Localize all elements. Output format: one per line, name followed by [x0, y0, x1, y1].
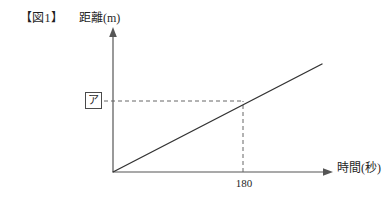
figure-panel: 【図1】 距離(m) 時間(秒) 180 ア: [0, 0, 388, 198]
y-axis-arrowhead-icon: [109, 27, 117, 37]
data-line-distance: [113, 64, 322, 172]
x-axis-arrowhead-icon: [323, 168, 333, 176]
x-axis: [113, 168, 333, 176]
plot-canvas: [0, 0, 388, 198]
y-axis: [109, 27, 117, 172]
